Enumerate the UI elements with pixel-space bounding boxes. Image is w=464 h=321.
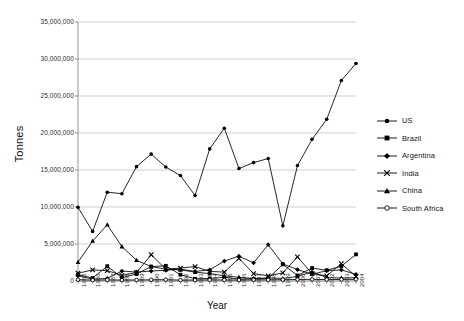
x-tick-label: 2004 xyxy=(359,273,365,287)
x-tick-label: 1987 xyxy=(110,273,116,287)
x-tick-label: 2002 xyxy=(329,273,335,287)
legend-label: Brazil xyxy=(398,134,421,143)
x-tick-label: 2003 xyxy=(344,273,350,287)
x-tick-label: 2000 xyxy=(300,273,306,287)
x-tick-label: 2001 xyxy=(315,273,321,287)
legend-marker-filled-triangle-icon xyxy=(376,185,398,197)
legend-marker-open-circle-icon xyxy=(376,202,398,214)
line-chart: Tonnes Year 35,000,00030,000,00025,000,0… xyxy=(0,0,464,321)
legend-label: US xyxy=(398,116,413,125)
legend-item-south-africa[interactable]: South Africa xyxy=(376,200,464,218)
legend-label: India xyxy=(398,169,419,178)
legend-label: China xyxy=(398,186,422,195)
legend-marker-filled-circle-icon xyxy=(376,115,398,127)
legend-marker-filled-square-icon xyxy=(376,132,398,144)
legend-marker-cross-x-icon xyxy=(376,167,398,179)
x-tick-label: 1994 xyxy=(212,273,218,287)
legend-item-india[interactable]: India xyxy=(376,165,464,183)
x-tick-label: 1999 xyxy=(285,273,291,287)
x-tick-label: 1985 xyxy=(81,273,87,287)
x-tick-label: 1996 xyxy=(241,273,247,287)
x-tick-label: 1993 xyxy=(198,273,204,287)
x-tick-label: 1986 xyxy=(95,273,101,287)
x-tick-label: 1998 xyxy=(271,273,277,287)
chart-legend: USBrazilArgentinaIndiaChinaSouth Africa xyxy=(376,112,464,217)
x-tick-label: 1991 xyxy=(168,273,174,287)
legend-item-us[interactable]: US xyxy=(376,112,464,130)
x-tick-label: 1988 xyxy=(124,273,130,287)
legend-item-china[interactable]: China xyxy=(376,182,464,200)
x-tick-label: 1990 xyxy=(154,273,160,287)
legend-item-brazil[interactable]: Brazil xyxy=(376,130,464,148)
legend-label: South Africa xyxy=(398,204,444,213)
legend-label: Argentina xyxy=(398,151,435,160)
legend-item-argentina[interactable]: Argentina xyxy=(376,147,464,165)
x-tick-label: 1989 xyxy=(139,273,145,287)
x-tick-label: 1995 xyxy=(227,273,233,287)
legend-marker-filled-diamond-icon xyxy=(376,150,398,162)
x-tick-label: 1992 xyxy=(183,273,189,287)
x-tick-label: 1997 xyxy=(256,273,262,287)
